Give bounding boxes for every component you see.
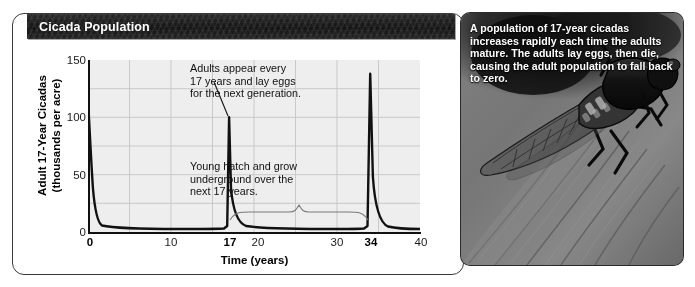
annotation-adults-appear-line-2: 17 years and lay eggs: [190, 75, 301, 88]
x-tick-40: 40: [415, 236, 428, 248]
photo-panel: A population of 17-year cicadas increase…: [461, 13, 683, 265]
y-axis-title-line-1: Adult 17-Year Cicadas: [36, 47, 50, 225]
x-tick-30: 30: [331, 236, 344, 248]
annotation-young-hatch-line-2: underground over the: [190, 173, 297, 186]
x-axis-line: [88, 232, 421, 234]
chart-area: Adult 17-Year Cicadas (thousands per acr…: [12, 44, 464, 275]
annotation-adults-appear-line-3: for the next generation.: [190, 87, 301, 100]
cicada-population-figure: Cicada Population Adult 17-Year Cicadas …: [0, 0, 695, 287]
photo-caption: A population of 17-year cicadas increase…: [461, 13, 683, 93]
annotation-adults-appear-line-1: Adults appear every: [190, 62, 301, 75]
annotation-young-hatch: Young hatch and grow underground over th…: [190, 160, 297, 198]
y-tick-100: 100: [54, 111, 86, 123]
y-tick-0: 0: [54, 226, 86, 238]
annotation-young-hatch-line-3: next 17 years.: [190, 185, 297, 198]
page-title: Cicada Population: [27, 20, 150, 34]
annotation-young-hatch-line-1: Young hatch and grow: [190, 160, 297, 173]
y-axis-line: [88, 60, 90, 233]
y-tick-150: 150: [54, 54, 86, 66]
x-tick-20: 20: [252, 236, 265, 248]
y-tick-50: 50: [54, 169, 86, 181]
x-axis-title: Time (years): [88, 254, 421, 266]
x-tick-17: 17: [224, 236, 237, 248]
x-tick-34: 34: [365, 236, 378, 248]
annotation-adults-appear: Adults appear every 17 years and lay egg…: [190, 62, 301, 100]
period-brace: [230, 205, 368, 220]
y-axis-ticks: 150 100 50 0: [52, 44, 86, 275]
x-tick-0: 0: [87, 236, 93, 248]
x-tick-10: 10: [165, 236, 178, 248]
panel-title-bar: Cicada Population: [27, 14, 455, 39]
